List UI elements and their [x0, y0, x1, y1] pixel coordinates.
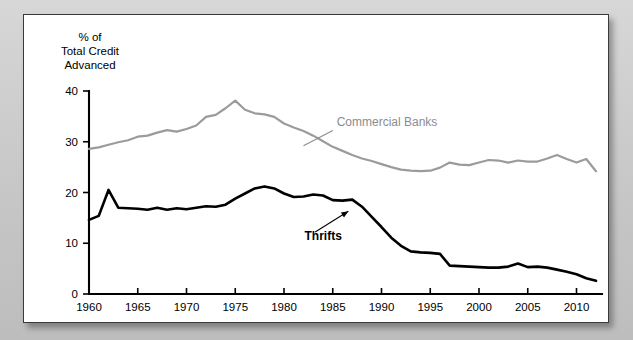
x-tick-label: 1960	[76, 301, 102, 313]
series-line-commercial-banks	[89, 101, 596, 172]
figure-root: % of Total Credit Advanced 010203040 196…	[0, 0, 633, 340]
x-tick-label: 1965	[125, 301, 151, 313]
y-tick-label: 10	[65, 237, 78, 249]
x-axis-ticks: 1960196519701975198019851990199520002005…	[76, 288, 589, 313]
x-tick-label: 1970	[174, 301, 200, 313]
x-tick-label: 2000	[466, 301, 492, 313]
y-axis-title-line-3: Advanced	[64, 59, 115, 71]
credit-share-line-chart: % of Total Credit Advanced 010203040 196…	[24, 15, 608, 322]
y-axis-title-line-1: % of	[78, 31, 102, 43]
x-tick-label: 1975	[222, 301, 248, 313]
thrifts-arrowhead-icon	[341, 211, 348, 217]
y-axis-title: % of Total Credit Advanced	[61, 31, 120, 71]
y-tick-label: 30	[65, 136, 78, 148]
x-tick-label: 2010	[564, 301, 590, 313]
y-tick-label: 0	[72, 288, 78, 300]
chart-panel: % of Total Credit Advanced 010203040 196…	[23, 14, 609, 323]
y-axis-ticks: 010203040	[65, 85, 89, 300]
y-tick-label: 20	[65, 187, 78, 199]
thrifts-label: Thrifts	[304, 229, 342, 243]
y-axis-title-line-2: Total Credit	[61, 45, 120, 57]
x-tick-label: 1995	[417, 301, 443, 313]
x-tick-label: 2005	[515, 301, 541, 313]
annotation-thrifts: Thrifts	[304, 211, 348, 243]
series-line-thrifts	[89, 186, 596, 280]
x-tick-label: 1990	[369, 301, 395, 313]
y-tick-label: 40	[65, 85, 78, 97]
commercial-banks-label: Commercial Banks	[337, 115, 438, 129]
x-tick-label: 1980	[271, 301, 297, 313]
x-tick-label: 1985	[320, 301, 346, 313]
